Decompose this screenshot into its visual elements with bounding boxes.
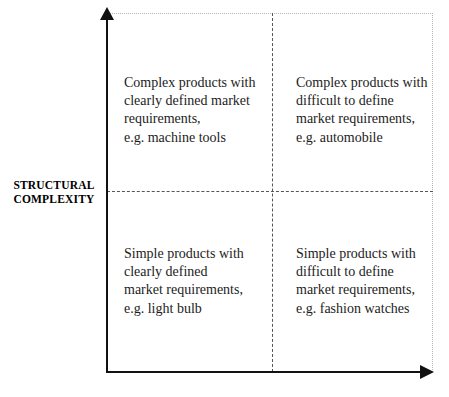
- y-axis-label: STRUCTURAL COMPLEXITY: [6, 179, 102, 206]
- quadrant-bottom-right-text: Simple products with difficult to define…: [296, 245, 436, 318]
- product-complexity-matrix: STRUCTURAL COMPLEXITY Complex products w…: [0, 0, 449, 397]
- y-axis-label-line-1: STRUCTURAL: [6, 179, 102, 193]
- x-axis-line: [106, 371, 424, 373]
- y-axis-arrow-icon: [100, 7, 114, 20]
- x-axis-arrow-icon: [420, 365, 434, 379]
- y-axis-line: [106, 18, 108, 373]
- quadrant-divider-vertical: [272, 13, 273, 372]
- quadrant-divider-horizontal: [107, 191, 433, 192]
- quadrant-bottom-left-text: Simple products with clearly defined mar…: [124, 245, 264, 318]
- quadrant-top-left-text: Complex products with clearly defined ma…: [124, 74, 264, 147]
- quadrant-top-right-text: Complex products with difficult to defin…: [296, 74, 436, 147]
- plot-border-right: [432, 13, 433, 372]
- plot-border-top: [107, 13, 433, 14]
- y-axis-label-line-2: COMPLEXITY: [6, 193, 102, 207]
